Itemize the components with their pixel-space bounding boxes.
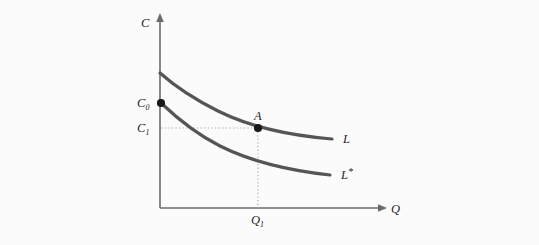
x-axis-label: Q: [391, 202, 400, 216]
tick-label-c0-subscript: 0: [146, 103, 150, 112]
curve-L-star: [161, 103, 330, 175]
economics-cost-quantity-diagram: C Q C 0 C 1 Q 1 A L L *: [0, 0, 539, 245]
point-c0-dot: [157, 99, 165, 107]
curve-L: [160, 73, 332, 139]
tick-label-q1-base: Q: [251, 213, 260, 227]
point-a-label: A: [253, 109, 262, 123]
tick-label-c1-subscript: 1: [146, 128, 150, 137]
x-axis-arrow-icon: [378, 204, 387, 212]
curve-label-L: L: [342, 132, 350, 146]
tick-label-q1-subscript: 1: [260, 220, 264, 229]
y-axis-label: C: [141, 16, 150, 30]
curve-label-L-star-base: L: [340, 168, 348, 182]
point-a-dot: [254, 124, 262, 132]
curve-label-L-star-asterisk: *: [349, 166, 354, 177]
figure-canvas: C Q C 0 C 1 Q 1 A L L *: [0, 0, 539, 245]
y-axis-arrow-icon: [156, 13, 164, 22]
